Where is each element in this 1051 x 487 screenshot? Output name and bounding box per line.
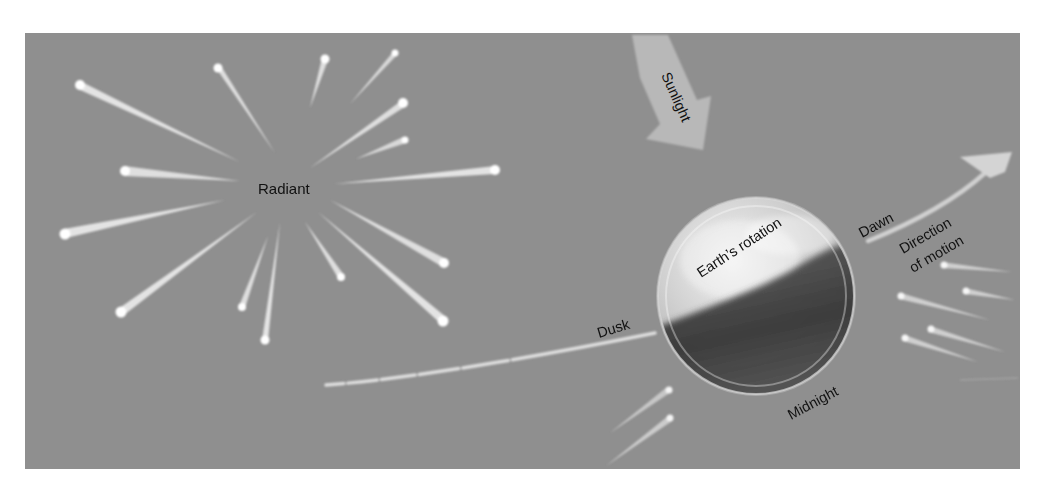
- radiant-label: Radiant: [258, 180, 311, 197]
- panel-background: [25, 33, 1020, 469]
- meteor-shower-diagram: Radiant Sunlight Earth’s rotation Dawn D…: [0, 0, 1051, 487]
